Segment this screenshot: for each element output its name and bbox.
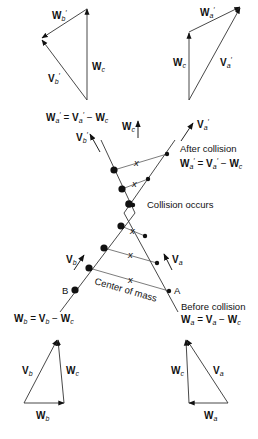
equation-before-right: Wa = Va − Wc — [181, 314, 241, 326]
label-wc-bottom-left: Wc — [66, 365, 79, 377]
label-vb-prime: Vb′ — [48, 72, 61, 85]
point-b-label: B — [62, 285, 68, 296]
equation-after-right: Wa′ = Va′ − Wc — [180, 157, 243, 170]
equation-before-left: Wb = Vb − Wc — [14, 313, 74, 325]
particle-b-dot — [110, 166, 117, 173]
particle-a-dot — [131, 203, 135, 207]
point-a-label: A — [174, 285, 181, 296]
top-left-vector-triangle — [42, 9, 87, 100]
collision-occurs-label: Collision occurs — [147, 199, 214, 210]
vb-prime-arrow-icon — [42, 40, 87, 100]
label-wa-prime: Wa′ — [200, 6, 215, 19]
before-collision-label: Before collision — [181, 301, 245, 312]
particle-a-dot — [155, 261, 159, 265]
equation-after-top: Wa′ = Va′ − Wc — [46, 111, 109, 124]
after-collision-label: After collision — [180, 143, 237, 154]
label-vb-mid: Vb — [66, 254, 77, 266]
center-of-mass-label: Center of mass — [93, 275, 158, 303]
particle-a-dot — [146, 177, 150, 181]
particle-b-dot — [118, 185, 125, 192]
label-vb-bottom: Vb — [22, 365, 33, 377]
particle-b-dot — [85, 264, 92, 271]
label-va-mid: Va — [172, 254, 183, 266]
svg-text:x: x — [129, 225, 136, 236]
svg-text:x: x — [127, 249, 134, 260]
label-wb-prime: Wb′ — [52, 9, 67, 22]
label-wc-top-right: Wc — [173, 57, 186, 69]
va-prime-velocity-arrow-icon — [181, 123, 193, 141]
particle-a-dot — [143, 234, 147, 238]
label-wc-mid: Wc — [122, 121, 135, 133]
particle-a-dot — [165, 152, 169, 156]
particle-b-dot — [117, 222, 124, 229]
vb-prime-velocity-arrow-icon — [90, 134, 100, 152]
label-wc-bottom-right: Wc — [171, 365, 184, 377]
label-va-prime: Va′ — [220, 56, 233, 69]
svg-text:x: x — [127, 274, 134, 285]
top-right-vector-triangle — [189, 7, 240, 100]
label-wc-top-left: Wc — [92, 61, 105, 73]
particle-b-dot — [100, 244, 107, 251]
label-va-prime-mid: Va′ — [197, 118, 210, 131]
label-wb-bottom: Wb — [36, 410, 49, 422]
label-va-bottom: Va — [213, 365, 224, 377]
particle-a-dot — [167, 289, 171, 293]
particle-b-dot — [71, 286, 78, 293]
label-vb-prime-mid: Vb′ — [76, 131, 89, 144]
collision-diagram: Wb′ Wc Vb′ Wa′ Wc Va′ Wa′ = Va′ − Wc Wc … — [0, 0, 258, 439]
label-wa-bottom: Wa — [204, 410, 217, 422]
va-velocity-arrow-icon — [164, 254, 172, 270]
